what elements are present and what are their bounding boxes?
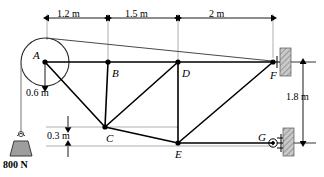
- joint-label-a: A: [33, 50, 40, 61]
- dimension-label-2m: 2 m: [209, 9, 224, 19]
- load-label-800n: 800 N: [3, 160, 28, 170]
- joint-label-c: C: [106, 133, 113, 144]
- truss-members: [45, 62, 273, 143]
- cable-pulley-to-f: [46, 38, 272, 61]
- vertical-dimension-0p3: [46, 116, 273, 157]
- member-BC: [105, 62, 108, 127]
- weight-block-800n: [10, 131, 32, 156]
- joint-label-g: G: [258, 132, 266, 143]
- joint-E: [175, 140, 180, 145]
- dimension-label-1p8m: 1.8 m: [286, 92, 309, 102]
- member-AC: [45, 62, 105, 127]
- extension-lines: [47, 14, 273, 60]
- joint-A: [42, 59, 47, 64]
- joint-C: [102, 124, 107, 129]
- joint-B: [105, 59, 110, 64]
- joint-label-d: D: [182, 68, 190, 79]
- joint-label-e: E: [175, 149, 182, 160]
- dimension-label-0p3m: 0.3 m: [47, 131, 70, 141]
- joint-label-f: F: [270, 70, 277, 81]
- joint-markers: [42, 59, 275, 145]
- support-wall-g: [283, 128, 294, 156]
- figure-canvas: A B C D E F G 1.2 m 1.5 m 2 m 1.8 m 0.3 …: [0, 0, 324, 177]
- dimension-label-0p6m: 0.6 m: [26, 88, 49, 98]
- joint-label-b: B: [112, 68, 119, 79]
- support-wall-f: [280, 48, 291, 76]
- dimension-label-1p2m: 1.2 m: [57, 9, 80, 19]
- joint-D: [175, 59, 180, 64]
- joint-F: [270, 59, 275, 64]
- member-CE: [105, 127, 178, 143]
- dimension-label-1p5m: 1.5 m: [125, 9, 148, 19]
